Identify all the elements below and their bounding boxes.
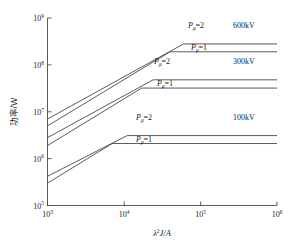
y-axis-title: 功率/W (9, 98, 19, 126)
y-tick-label-1e6: 106 (33, 153, 44, 163)
group-label-100kv: 100kV (233, 113, 255, 122)
y-tick-label-1e7: 107 (33, 107, 44, 117)
group-label-300kv: 300kV (233, 57, 255, 66)
annotation-300kv-pmu1: Pμ=1 (156, 79, 173, 89)
annotation-600kv-pmu2: Pμ=2 (187, 21, 204, 31)
y-tick-label-1e8: 108 (33, 60, 44, 70)
curve-600kv-pmu2 (48, 44, 278, 119)
curve-100kv-pmu2 (48, 136, 278, 177)
x-tick-labels: 103 104 105 106 (42, 209, 283, 219)
x-tick-label-1e3: 103 (42, 209, 53, 219)
annotation-300kv-pmu2: Pμ=2 (153, 57, 170, 67)
y-tick-label-1e5: 105 (33, 200, 44, 210)
group-labels: 600kV 300kV 100kV (233, 21, 255, 122)
log-log-chart: 109 108 107 106 105 103 104 105 106 功率/W… (0, 0, 296, 249)
x-tick-label-1e4: 104 (119, 209, 130, 219)
annotation-600kv-pmu1: Pμ=1 (190, 43, 207, 53)
x-tick-label-1e5: 105 (195, 209, 206, 219)
x-axis-title: λ2J/A (152, 228, 172, 238)
curve-annotations: Pμ=2 Pμ=1 Pμ=2 Pμ=1 Pμ=2 Pμ=1 (135, 21, 207, 145)
group-label-600kv: 600kV (233, 21, 255, 30)
y-tick-label-1e9: 109 (33, 13, 44, 23)
curve-100kv-pmu1 (48, 144, 278, 184)
x-tick-label-1e6: 106 (272, 209, 283, 219)
y-tick-marks (48, 18, 52, 206)
figure-container: 109 108 107 106 105 103 104 105 106 功率/W… (0, 0, 296, 249)
annotation-100kv-pmu2: Pμ=2 (135, 113, 152, 123)
y-tick-labels: 109 108 107 106 105 (33, 13, 44, 211)
annotation-100kv-pmu1: Pμ=1 (135, 135, 152, 145)
x-tick-marks (48, 202, 278, 206)
